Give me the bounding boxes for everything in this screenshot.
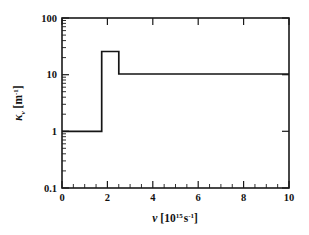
y-axis-title: κν[m-1]: [12, 85, 27, 120]
x-tick-label: 2: [105, 192, 110, 203]
x-axis-bracket-open: [10: [160, 212, 176, 224]
svg-text:κν[m-1]: κν[m-1]: [12, 85, 27, 120]
absorption-coefficient-chart: 0 2 4 6 8 10 0.1 1 10 100 ν[1015s-1] κν[…: [0, 0, 309, 235]
y-axis-bracket-close: ]: [12, 85, 24, 89]
chart-figure: 0 2 4 6 8 10 0.1 1 10 100 ν[1015s-1] κν[…: [0, 0, 309, 235]
y-tick-label: 10: [47, 69, 58, 80]
x-major-ticks: [62, 18, 289, 188]
x-tick-label: 6: [196, 192, 201, 203]
svg-text:ν[1015s-1]: ν[1015s-1]: [152, 212, 198, 224]
x-axis-symbol: ν: [152, 212, 158, 224]
y-tick-labels: 0.1 1 10 100: [41, 13, 57, 194]
x-tick-label: 4: [150, 192, 156, 203]
x-tick-labels: 0 2 4 6 8 10: [59, 192, 294, 203]
x-axis-exp-15: 15: [176, 212, 184, 220]
y-major-ticks: [62, 18, 289, 188]
absorption-step-curve: [62, 52, 289, 132]
x-tick-label: 8: [241, 192, 246, 203]
y-tick-label: 0.1: [44, 183, 57, 194]
x-axis-bracket-close: ]: [194, 212, 198, 224]
plot-frame: [62, 18, 289, 188]
x-tick-label: 10: [284, 192, 295, 203]
x-axis-title: ν[1015s-1]: [152, 212, 198, 224]
y-axis-bracket-open: [m: [12, 95, 24, 109]
y-axis-subscript: ν: [19, 111, 27, 115]
y-tick-label: 1: [52, 126, 57, 137]
y-tick-label: 100: [41, 13, 57, 24]
x-tick-label: 0: [59, 192, 64, 203]
